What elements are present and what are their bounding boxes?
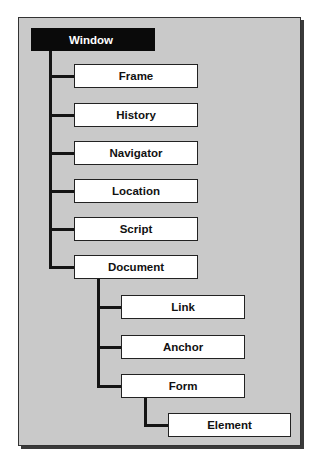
node-label: Document [108, 261, 164, 273]
connector-element [144, 424, 169, 427]
node-label: History [116, 109, 156, 121]
connector-form-trunk [144, 397, 147, 427]
node-label: Form [169, 380, 198, 392]
node-label: Navigator [109, 147, 162, 159]
node-label: Element [207, 419, 252, 431]
node-history: History [74, 103, 198, 127]
connector-document-trunk [97, 278, 100, 388]
node-anchor: Anchor [121, 335, 245, 359]
connector-anchor [97, 346, 122, 349]
node-script: Script [74, 217, 198, 241]
connector-link [97, 306, 122, 309]
connector-location [49, 190, 75, 193]
node-label: Frame [119, 70, 154, 82]
connector-form [97, 385, 122, 388]
node-form: Form [121, 374, 245, 398]
node-label: Link [171, 301, 195, 313]
connector-root-trunk [49, 51, 52, 269]
node-label: Location [112, 185, 160, 197]
connector-frame [49, 75, 75, 78]
node-element: Element [168, 413, 291, 437]
node-window: Window [31, 28, 155, 51]
node-navigator: Navigator [74, 141, 198, 165]
node-link: Link [121, 295, 245, 319]
node-document: Document [74, 255, 198, 279]
connector-navigator [49, 152, 75, 155]
connector-history [49, 114, 75, 117]
connector-document [49, 266, 75, 269]
connector-script [49, 228, 75, 231]
node-frame: Frame [74, 64, 198, 88]
node-label: Script [120, 223, 153, 235]
node-label: Anchor [163, 341, 203, 353]
node-label: Window [69, 34, 113, 46]
node-location: Location [74, 179, 198, 203]
